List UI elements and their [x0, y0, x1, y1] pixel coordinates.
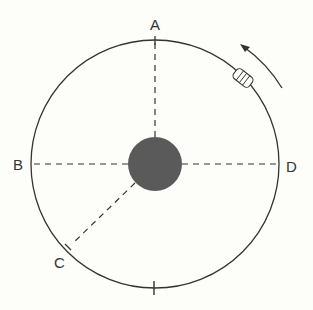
radial-line-c: [72, 183, 135, 244]
tick-c: [65, 244, 71, 250]
planet: [128, 137, 182, 191]
label-a: A: [150, 16, 160, 33]
label-d: D: [286, 158, 297, 175]
label-c: C: [54, 254, 65, 271]
label-b: B: [13, 156, 23, 173]
orbit-diagram: A B C D: [0, 0, 313, 310]
